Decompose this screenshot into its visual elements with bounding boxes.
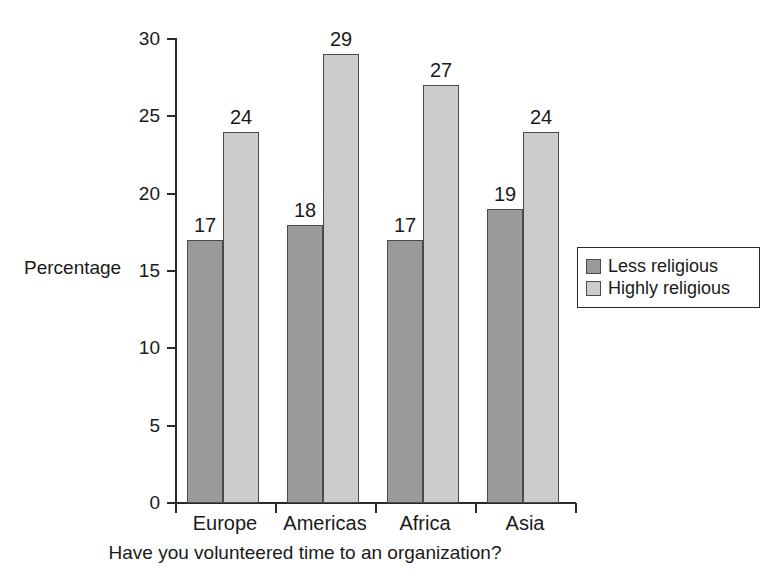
legend-item-less-religious[interactable]: Less religious [586,255,751,277]
bar-value-label: 29 [311,29,371,49]
x-axis-category-label: Europe [175,511,275,535]
bar-value-label: 24 [211,107,271,127]
y-axis-tick-label: 5 [126,416,160,435]
legend-item-highly-religious[interactable]: Highly religious [586,277,751,299]
y-axis-tick-label: 10 [126,338,160,357]
chart-legend: Less religious Highly religious [577,247,760,308]
legend-label-series-0: Less religious [608,256,718,276]
x-axis-category-label: Asia [475,511,575,535]
bar-value-label: 24 [511,107,571,127]
y-axis-tick-label: 30 [126,29,160,48]
bar [323,54,359,503]
y-axis-title: Percentage [24,258,121,277]
bar [387,240,423,503]
bar-value-label: 17 [375,215,435,235]
bar [287,225,323,503]
bar [223,132,259,503]
x-axis-category-label: Americas [275,511,375,535]
bar-value-label: 17 [175,215,235,235]
bar-chart: Percentage 051015202530 1724182917271924… [0,0,777,579]
bar [423,85,459,503]
bar [487,209,523,503]
y-axis-tick-label: 0 [126,493,160,512]
y-axis-tick-label: 25 [126,106,160,125]
bar-value-label: 18 [275,200,335,220]
bar-value-label: 27 [411,60,471,80]
legend-swatch-icon-series-1 [586,281,601,296]
x-axis-tick [575,503,577,513]
legend-swatch-icon-series-0 [586,259,601,274]
legend-label-series-1: Highly religious [608,278,730,298]
y-axis-tick-label: 20 [126,184,160,203]
x-axis-title: Have you volunteered time to an organiza… [0,542,610,564]
y-axis-tick-label: 15 [126,261,160,280]
bar [187,240,223,503]
bar-value-label: 19 [475,184,535,204]
x-axis-category-label: Africa [375,511,475,535]
